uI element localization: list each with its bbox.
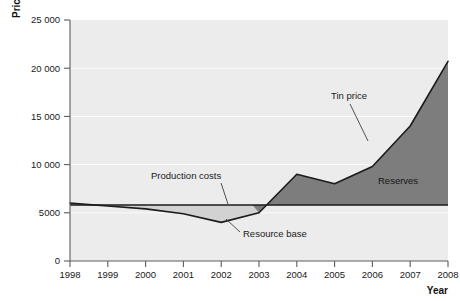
x-tick-label-1999: 1999 [97,269,118,280]
x-tick-label-2001: 2001 [173,269,194,280]
y-tick-label-0: 0 [55,255,60,266]
x-axis-ticks [70,261,448,267]
annotation-production-costs: Production costs [151,170,221,181]
tin-price-chart: 0 5000 10 000 15 000 20 000 25 000 1998 … [0,0,460,301]
annotation-tin-price: Tin price [331,90,367,101]
y-tick-label-10000: 10 000 [31,159,60,170]
annotation-resource-base: Resource base [243,228,307,239]
x-tick-label-2005: 2005 [324,269,345,280]
x-tick-label-2008: 2008 [437,269,458,280]
y-tick-label-25000: 25 000 [31,14,60,25]
x-tick-label-2006: 2006 [362,269,383,280]
y-tick-label-20000: 20 000 [31,63,60,74]
x-tick-label-2002: 2002 [211,269,232,280]
plot-area-background [70,20,448,261]
x-tick-label-2000: 2000 [135,269,156,280]
y-axis-title: Price/tonne US$ [11,0,22,18]
y-axis-ticks [64,20,70,261]
x-tick-label-2007: 2007 [400,269,421,280]
annotation-reserves: Reserves [378,175,418,186]
y-tick-label-15000: 15 000 [31,111,60,122]
x-tick-label-2003: 2003 [248,269,269,280]
y-tick-label-5000: 5000 [39,207,60,218]
x-axis-title: Year [427,285,448,296]
x-tick-label-1998: 1998 [59,269,80,280]
x-tick-label-2004: 2004 [286,269,307,280]
